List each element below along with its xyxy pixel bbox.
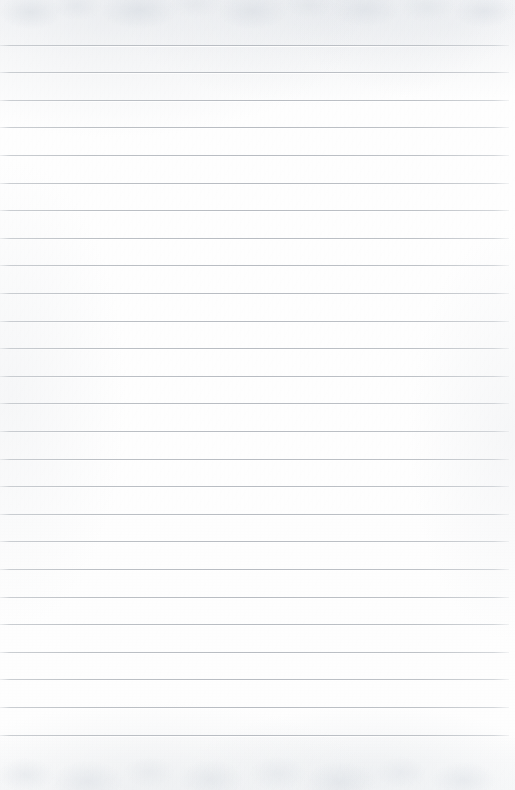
lined-paper-sheet [0,0,515,790]
writing-area[interactable] [0,44,509,736]
paper-bottom-edge-mottle [0,736,515,790]
paper-top-edge-mottle [0,0,515,46]
